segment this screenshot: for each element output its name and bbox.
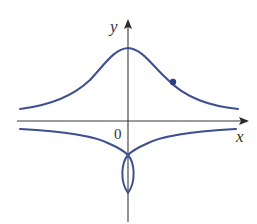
- lower-curve-right-branch: [128, 129, 236, 155]
- upper-curve-branch: [20, 48, 238, 109]
- y-axis-label: y: [108, 17, 118, 36]
- curve-figure: y x 0: [0, 0, 257, 224]
- origin-label: 0: [114, 126, 122, 142]
- x-axis-label: x: [235, 127, 244, 146]
- marked-point: [170, 79, 176, 85]
- lower-curve-left-branch: [20, 129, 128, 155]
